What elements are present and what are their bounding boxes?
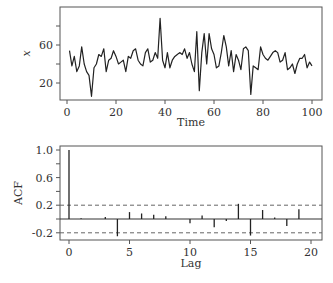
y-tick-label: 0.2 xyxy=(36,199,54,212)
x-tick-label: 100 xyxy=(302,106,323,119)
y-tick-label: 60 xyxy=(39,39,53,52)
x-tick-label: 20 xyxy=(304,246,318,259)
x-tick-label: 60 xyxy=(207,106,221,119)
y-tick-label: 20 xyxy=(39,77,53,90)
x-tick-label: 5 xyxy=(126,246,133,259)
y-axis-label: x xyxy=(20,50,33,57)
x-tick-label: 20 xyxy=(109,106,123,119)
x-axis-label: Lag xyxy=(181,257,202,270)
time-series-plot: 0204060801002060Timex xyxy=(20,7,323,129)
y-tick-label: 1.0 xyxy=(36,144,54,157)
x-tick-label: 15 xyxy=(244,246,258,259)
x-tick-label: 80 xyxy=(256,106,270,119)
x-tick-label: 40 xyxy=(158,106,172,119)
x-tick-label: 0 xyxy=(64,106,71,119)
plot-frame xyxy=(60,146,322,240)
acf-plot: 051015201.00.60.2-0.2LagACF xyxy=(12,144,322,270)
y-tick-label: -0.2 xyxy=(32,227,53,240)
y-axis-label: ACF xyxy=(12,181,25,206)
x-tick-label: 0 xyxy=(66,246,73,259)
series-line xyxy=(70,18,313,96)
x-axis-label: Time xyxy=(177,116,205,129)
figure: 0204060801002060Timex 051015201.00.60.2-… xyxy=(0,0,333,283)
y-tick-label: 0.6 xyxy=(36,172,54,185)
plot-frame xyxy=(60,7,322,100)
